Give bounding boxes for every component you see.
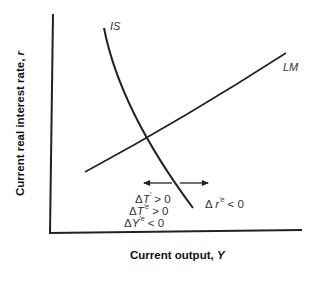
- y-axis-title: Current real interest rate, r: [14, 51, 26, 196]
- delta-symbol: Δ: [205, 198, 215, 210]
- y-axis: [50, 14, 53, 233]
- x-axis-title-text: Current output,: [130, 249, 217, 261]
- annotation-inequality: < 0: [224, 198, 244, 210]
- x-axis-title: Current output, Y: [130, 249, 225, 261]
- is-lm-diagram: [0, 0, 312, 281]
- x-axis-variable: Y: [217, 249, 225, 261]
- annotation-delta-re: Δ r′e < 0: [205, 194, 244, 210]
- lm-curve-label: LM: [283, 61, 298, 73]
- annotation-inequality: < 0: [145, 217, 165, 229]
- x-axis: [49, 230, 302, 233]
- y-axis-variable: r: [14, 51, 26, 55]
- y-axis-title-text: Current real interest rate,: [14, 55, 26, 196]
- is-curve-label: IS: [110, 20, 120, 32]
- annotation-delta-ye: ΔY′e < 0: [124, 213, 164, 229]
- delta-symbol: Δ: [124, 217, 132, 229]
